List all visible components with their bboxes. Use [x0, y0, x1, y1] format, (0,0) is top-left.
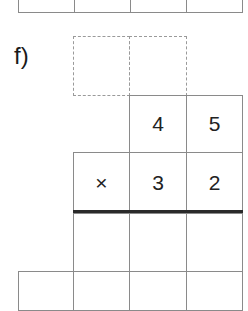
- partial2-cell[interactable]: [129, 271, 187, 311]
- multiplicand-digit-tens: 4: [129, 95, 187, 153]
- carry-box-ones[interactable]: [129, 36, 187, 96]
- multiplier-digit-tens: 3: [129, 152, 187, 213]
- partial2-cell[interactable]: [73, 271, 130, 311]
- exercise-label: f): [14, 42, 29, 70]
- partial1-cell[interactable]: [186, 213, 243, 272]
- previous-exercise-row: [18, 0, 243, 13]
- prev-cell: [130, 0, 187, 13]
- multiplicand-digit-ones: 5: [186, 95, 243, 153]
- operator-cell: ×: [73, 152, 130, 213]
- partial2-cell[interactable]: [18, 271, 74, 311]
- partial1-cell[interactable]: [129, 213, 187, 272]
- carry-box-tens[interactable]: [73, 36, 130, 96]
- prev-cell: [74, 0, 131, 13]
- multiplier-digit-ones: 2: [186, 152, 243, 213]
- prev-cell: [186, 0, 243, 13]
- prev-cell: [18, 0, 75, 13]
- partial1-cell[interactable]: [73, 213, 130, 272]
- partial2-cell[interactable]: [186, 271, 243, 311]
